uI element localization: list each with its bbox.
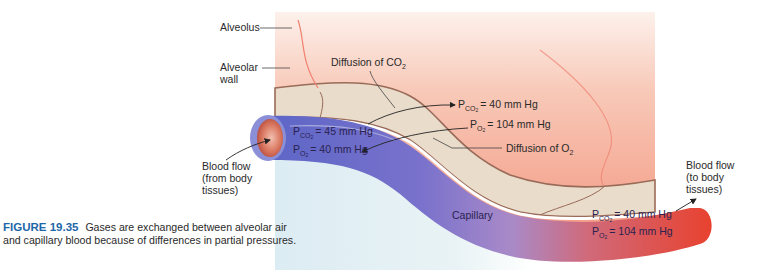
svg-text:Diffusion of O2: Diffusion of O2 <box>506 142 573 156</box>
figure-number: FIGURE 19.35 <box>3 221 78 233</box>
svg-text:Blood flow: Blood flow <box>686 159 735 171</box>
svg-text:Alveolus: Alveolus <box>220 21 260 33</box>
svg-text:(to body: (to body <box>686 171 725 183</box>
svg-text:Diffusion of CO2: Diffusion of CO2 <box>331 56 406 70</box>
svg-text:wall: wall <box>219 73 238 85</box>
svg-text:Alveolar: Alveolar <box>220 61 258 73</box>
svg-text:(from body: (from body <box>202 172 253 184</box>
svg-text:tissues): tissues) <box>686 183 722 195</box>
capillary-lumen <box>257 119 283 157</box>
svg-text:Blood flow: Blood flow <box>202 160 251 172</box>
figure-caption: FIGURE 19.35 Gases are exchanged between… <box>3 221 303 247</box>
svg-text:tissues): tissues) <box>202 184 238 196</box>
label-blood-flow-out: Blood flow (to body tissues) <box>676 159 735 211</box>
label-capillary: Capillary <box>452 209 494 221</box>
